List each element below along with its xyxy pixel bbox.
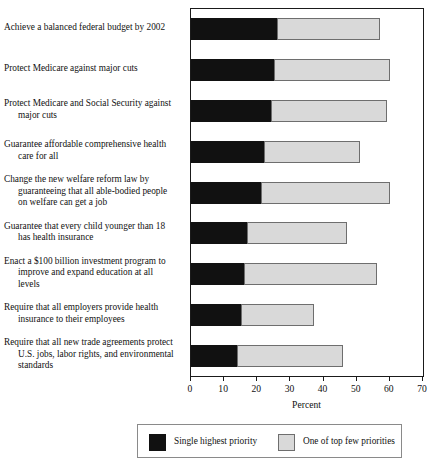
category-label-column: Achieve a balanced federal budget by 200… [0,8,183,375]
plot-area [190,8,424,377]
category-label: Enact a $100 billion investment program … [4,256,177,291]
legend-item: Single highest priority [149,425,257,459]
x-axis-tick-label: 50 [351,383,361,394]
bar-segment-top-few-priorities [264,141,360,163]
bar-segment-top-few-priorities [271,100,387,122]
category-label: Guarantee that every child younger than … [4,221,177,244]
legend: Single highest priorityOne of top few pr… [137,424,402,458]
x-axis-tick [389,376,390,381]
category-label: Require that all employers provide healt… [4,302,177,325]
x-axis-title: Percent [190,399,423,410]
bar-segment-top-few-priorities [244,263,377,285]
bar-segment-top-few-priorities [274,59,390,81]
bar-segment-highest-priority [191,263,244,285]
x-axis-tick [289,376,290,381]
x-axis: 010203040506070 [190,376,423,377]
x-axis-tick-label: 40 [318,383,328,394]
x-axis-tick-label: 30 [285,383,295,394]
dark-swatch-icon [149,434,166,451]
legend-label: Single highest priority [174,436,257,447]
x-axis-tick [323,376,324,381]
x-axis-tick-label: 10 [218,383,228,394]
x-axis-tick [223,376,224,381]
x-axis-tick-label: 70 [417,383,427,394]
x-axis-tick [256,376,257,381]
light-swatch-icon [278,434,295,451]
bar-segment-top-few-priorities [277,18,380,40]
x-axis-tick [356,376,357,381]
bar-segment-top-few-priorities [241,304,314,326]
category-label: Protect Medicare and Social Security aga… [4,98,177,121]
category-label: Require that all new trade agreements pr… [4,337,177,372]
x-axis-tick-label: 20 [251,383,261,394]
category-label: Change the new welfare reform law by gua… [4,174,177,209]
category-label: Achieve a balanced federal budget by 200… [4,22,177,34]
category-label: Guarantee affordable comprehensive healt… [4,139,177,162]
bar-segment-highest-priority [191,345,237,367]
bar-segment-highest-priority [191,304,241,326]
x-axis-tick [190,376,191,381]
stacked-bar-chart: Achieve a balanced federal budget by 200… [0,0,441,471]
x-axis-tick [422,376,423,381]
legend-item: One of top few priorities [278,425,395,459]
category-label: Protect Medicare against major cuts [4,63,177,75]
legend-label: One of top few priorities [303,436,395,447]
bar-segment-top-few-priorities [247,222,346,244]
x-axis-tick-label: 0 [188,383,193,394]
bar-segment-highest-priority [191,18,277,40]
x-axis-tick-label: 60 [384,383,394,394]
bar-segment-highest-priority [191,59,274,81]
bar-segment-highest-priority [191,182,261,204]
bar-segment-highest-priority [191,222,247,244]
bar-segment-top-few-priorities [237,345,343,367]
bar-segment-top-few-priorities [261,182,390,204]
bar-segment-highest-priority [191,100,271,122]
bar-segment-highest-priority [191,141,264,163]
